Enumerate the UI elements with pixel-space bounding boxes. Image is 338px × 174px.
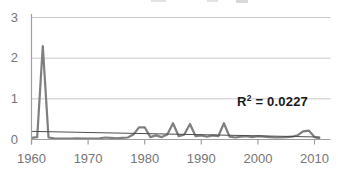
line-chart: 1960197019801990200020100123 [0, 0, 338, 174]
r-squared-value: = 0.0227 [252, 94, 308, 109]
r-squared-annotation: R2 = 0.0227 [222, 94, 308, 109]
x-axis-tick-label: 1970 [74, 151, 103, 166]
cropped-title-fragment [236, 0, 248, 3]
y-axis-tick-label: 0 [11, 132, 18, 147]
x-axis-tick-label: 2000 [243, 151, 272, 166]
y-axis-tick-label: 2 [11, 50, 18, 65]
x-axis-tick-label: 1980 [130, 151, 159, 166]
cropped-title-fragment [151, 0, 166, 2]
x-axis-tick-label: 1990 [187, 151, 216, 166]
y-axis-tick-label: 1 [11, 91, 18, 106]
chart-screenshot: 1960197019801990200020100123 R2 = 0.0227 [0, 0, 338, 174]
cropped-title-fragment [207, 0, 218, 2]
r-squared-prefix: R [237, 94, 247, 109]
x-axis-tick-label: 2010 [300, 151, 329, 166]
x-axis-tick-label: 1960 [17, 151, 46, 166]
y-axis-tick-label: 3 [11, 10, 18, 25]
data-series-line [32, 46, 321, 139]
